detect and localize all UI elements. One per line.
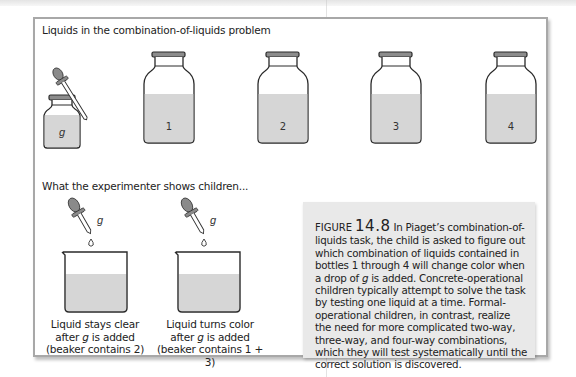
beaker-2-caption: Liquid turns color after g is added (bea… [152, 318, 268, 368]
bottle-g-label: g [52, 126, 72, 138]
figure-caption: FIGURE 14.8 In Piaget’s combination-of-l… [303, 202, 535, 358]
dropper-2-label: g [203, 214, 223, 226]
beaker-1 [62, 252, 127, 312]
bottle-2-label: 2 [273, 121, 293, 132]
beaker-2 [175, 252, 240, 312]
bottle-4-label: 4 [501, 121, 521, 132]
drop-falling-1 [89, 239, 94, 246]
bottle-1-label: 1 [159, 121, 179, 132]
figure-number: 14.8 [355, 217, 390, 235]
figure-label: FIGURE [315, 222, 352, 233]
dropper-1-label: g [90, 214, 110, 226]
drop-falling-2 [202, 239, 207, 246]
demonstration-subtitle: What the experimenter shows children... [42, 180, 248, 192]
beaker-1-caption: Liquid stays clear after g is added (bea… [40, 318, 150, 356]
caption-text-post: is added. Concrete-operational children … [315, 272, 527, 371]
bottle-3-label: 3 [386, 121, 406, 132]
